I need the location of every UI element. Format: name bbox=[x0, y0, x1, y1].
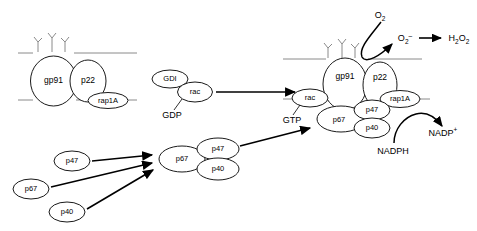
label-superoxide: O2– bbox=[398, 32, 413, 45]
label-p67-active: p67 bbox=[333, 115, 346, 124]
label-NADP-plus: NADP+ bbox=[429, 126, 458, 139]
label-p47-free: p47 bbox=[66, 156, 79, 165]
gdp-tether bbox=[174, 99, 182, 110]
arrow-cytosolic-translocation bbox=[240, 128, 310, 146]
label-p40-active: p40 bbox=[366, 123, 379, 132]
label-p47-active: p47 bbox=[366, 105, 379, 114]
glycosylation-icon-left bbox=[34, 33, 69, 52]
label-p22-resting: p22 bbox=[81, 75, 95, 85]
label-rap1A-active: rap1A bbox=[390, 94, 410, 103]
resting-complex-group: gp91 p22 rap1A bbox=[31, 56, 129, 109]
label-GDI: GDI bbox=[163, 74, 176, 83]
label-rac-inactive: rac bbox=[190, 87, 201, 96]
label-gp91-active: gp91 bbox=[336, 71, 355, 81]
arrow-p47-assembly bbox=[92, 155, 152, 161]
label-p40-assembled: p40 bbox=[212, 164, 225, 173]
label-hydrogen-peroxide: H2O2 bbox=[449, 33, 470, 44]
gtp-tether bbox=[293, 105, 300, 115]
label-gp91-resting: gp91 bbox=[44, 75, 63, 85]
label-GDP: GDP bbox=[162, 110, 182, 120]
label-p67-free: p67 bbox=[25, 184, 38, 193]
label-rac-active: rac bbox=[305, 93, 316, 102]
label-rap1A-resting: rap1A bbox=[98, 96, 118, 105]
glycosylation-icon-right bbox=[324, 39, 359, 58]
label-p67-assembled: p67 bbox=[176, 154, 189, 163]
label-oxygen: O2 bbox=[375, 10, 386, 21]
label-p40-free: p40 bbox=[61, 207, 74, 216]
label-p22-active: p22 bbox=[373, 72, 387, 82]
active-complex-group: gp91 p22 rap1A rac p67 p47 p40 bbox=[292, 58, 420, 138]
label-GTP: GTP bbox=[283, 115, 302, 125]
rac-gdi-cluster: GDI rac GDP bbox=[152, 70, 213, 120]
diagram-canvas: gp91 p22 rap1A GDI rac GDP p47 p67 p40 bbox=[0, 0, 477, 231]
label-p47-assembled: p47 bbox=[212, 144, 225, 153]
arrow-oxygen-reduction bbox=[361, 22, 392, 60]
label-NADPH: NADPH bbox=[377, 146, 409, 156]
cytosolic-complex-group: p67 p47 p40 bbox=[159, 138, 239, 180]
oxidase-diagram: gp91 p22 rap1A GDI rac GDP p47 p67 p40 bbox=[0, 0, 477, 231]
